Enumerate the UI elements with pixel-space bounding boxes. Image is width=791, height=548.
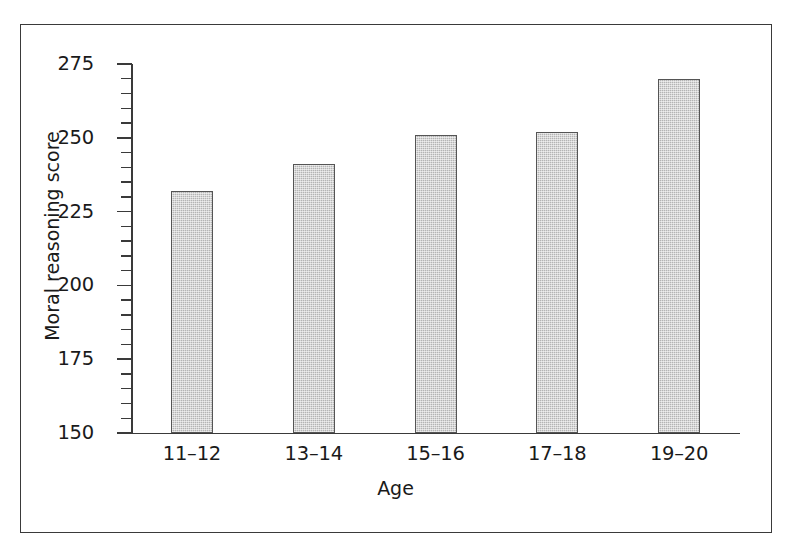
y-tick-major (117, 432, 132, 434)
y-tick-minor (121, 329, 132, 330)
y-tick-minor (121, 314, 132, 315)
y-tick-major (117, 63, 132, 65)
y-tick-minor (121, 403, 132, 404)
y-tick-major (117, 358, 132, 360)
y-tick-minor (121, 373, 132, 374)
y-tick-minor (121, 270, 132, 271)
y-tick-minor (121, 299, 132, 300)
bar-chart-plot-area: 275250225200175150 11–1213–1415–1617–181… (0, 0, 791, 548)
y-tick-label: 275 (32, 52, 94, 75)
x-tick-label: 15–16 (376, 442, 496, 465)
y-tick-minor (121, 344, 132, 345)
y-tick-minor (121, 240, 132, 241)
y-tick-minor (121, 108, 132, 109)
y-tick-minor (121, 167, 132, 168)
x-tick-label: 19–20 (619, 442, 739, 465)
bar (658, 79, 700, 433)
y-tick-minor (121, 181, 132, 182)
y-tick-major (117, 137, 132, 139)
y-tick-minor (121, 255, 132, 256)
x-tick-label: 13–14 (254, 442, 374, 465)
bar (536, 132, 578, 433)
bar (415, 135, 457, 433)
y-tick-label: 150 (32, 421, 94, 444)
y-axis-line (131, 64, 133, 434)
x-axis-title: Age (0, 477, 791, 499)
y-tick-minor (121, 196, 132, 197)
y-tick-minor (121, 418, 132, 419)
y-tick-minor (121, 152, 132, 153)
y-tick-minor (121, 93, 132, 94)
y-tick-major (117, 285, 132, 287)
y-tick-minor (121, 122, 132, 123)
y-tick-minor (121, 226, 132, 227)
y-axis-title: Moral reasoning score (41, 121, 63, 351)
y-tick-minor (121, 388, 132, 389)
x-tick-label: 17–18 (497, 442, 617, 465)
bar (171, 191, 213, 433)
bar (293, 164, 335, 433)
y-tick-minor (121, 78, 132, 79)
y-tick-major (117, 211, 132, 213)
x-tick-label: 11–12 (132, 442, 252, 465)
